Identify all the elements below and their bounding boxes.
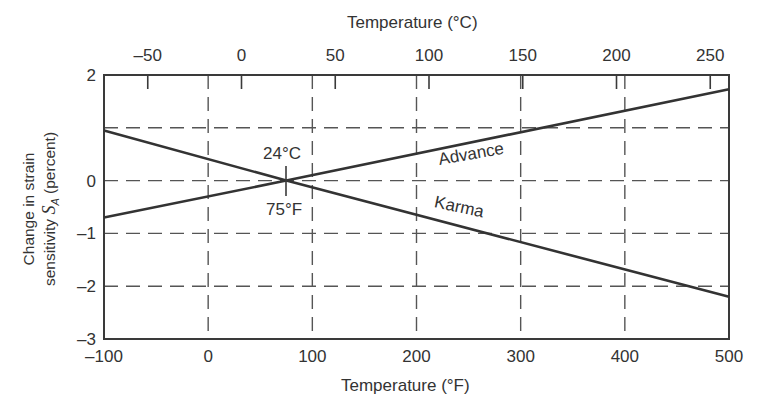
y-axis-tick-label: 0: [87, 172, 96, 189]
top-axis-tick-label: 50: [326, 47, 345, 64]
y-axis-title-prefix: sensitivity: [41, 215, 58, 287]
top-axis-tick-label: 250: [696, 47, 724, 64]
crossover-label-fahrenheit: 75°F: [266, 201, 302, 218]
y-axis-tick-label: –3: [77, 331, 96, 348]
y-axis-tick-label: 2: [87, 67, 96, 84]
series-line-karma: [104, 130, 729, 296]
y-axis-title-suffix: (percent): [41, 132, 58, 194]
y-axis-subscript: A: [49, 198, 61, 205]
y-axis-title: Change in strain sensitivity SA (percent…: [19, 132, 65, 286]
top-axis-tick-label: 100: [415, 47, 443, 64]
top-axis-tick-label: 0: [237, 47, 246, 64]
y-axis-title-line2: sensitivity SA (percent): [39, 132, 65, 286]
top-axis-tick-label: –50: [134, 47, 162, 64]
bottom-axis-tick-label: 100: [298, 348, 326, 365]
bottom-axis-tick-label: –100: [85, 348, 123, 365]
y-axis-symbol: S: [39, 206, 59, 215]
bottom-axis-title: Temperature (°F): [341, 377, 470, 394]
y-axis-title-line1: Change in strain: [19, 132, 39, 286]
bottom-axis-tick-label: 400: [611, 348, 639, 365]
top-axis-tick-label: 200: [602, 47, 630, 64]
bottom-axis-tick-label: 300: [506, 348, 534, 365]
y-axis-tick-label: –1: [77, 225, 96, 242]
crossover-label-celsius: 24°C: [263, 145, 301, 162]
top-axis-title: Temperature (°C): [347, 14, 478, 31]
top-axis-tick-label: 150: [509, 47, 537, 64]
bottom-axis-tick-label: 200: [402, 348, 430, 365]
grid-lines: [104, 75, 729, 339]
axis-ticks: [148, 75, 711, 89]
bottom-axis-tick-label: 0: [203, 348, 212, 365]
y-axis-tick-label: –2: [77, 278, 96, 295]
bottom-axis-tick-label: 500: [715, 348, 743, 365]
